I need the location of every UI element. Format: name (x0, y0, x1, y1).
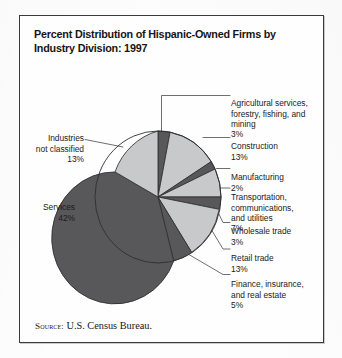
source-label: Source: (35, 321, 64, 331)
callout-construction-text: Construction (231, 141, 278, 151)
callout-industries-not-classified: Industries not classified 13% (20, 123, 84, 175)
leader-line-not-classified (85, 140, 123, 148)
pie-chart: Agricultural services, forestry, fishing… (20, 16, 322, 341)
callout-retail-text: Retail trade (231, 253, 274, 263)
callout-wholesale-text: Wholesale trade (231, 226, 291, 236)
source-text: U.S. Census Bureau. (66, 320, 152, 331)
callout-finance-text: Finance, insurance, and real estate (231, 279, 304, 299)
callout-not-classified-text: Industries not classified (36, 133, 84, 153)
callout-finance-percent: 5% (231, 300, 323, 310)
callout-services-text: Services (43, 202, 75, 212)
callout-construction-percent: 13% (231, 152, 321, 162)
callout-finance-insurance: Finance, insurance, and real estate 5% (231, 269, 323, 321)
callout-services-percent: 42% (20, 213, 75, 223)
source-note: Source:U.S. Census Bureau. (35, 320, 152, 331)
callout-agricultural-text: Agricultural services, forestry, fishing… (231, 98, 308, 129)
leader-line-finance (188, 254, 230, 275)
leader-line-agricultural (162, 96, 231, 133)
callout-services: Services 42% (20, 192, 75, 233)
figure-frame: Percent Distribution of Hispanic-Owned F… (19, 15, 324, 343)
callout-manufacturing-text: Manufacturing (231, 172, 284, 182)
callout-not-classified-percent: 13% (20, 154, 84, 164)
